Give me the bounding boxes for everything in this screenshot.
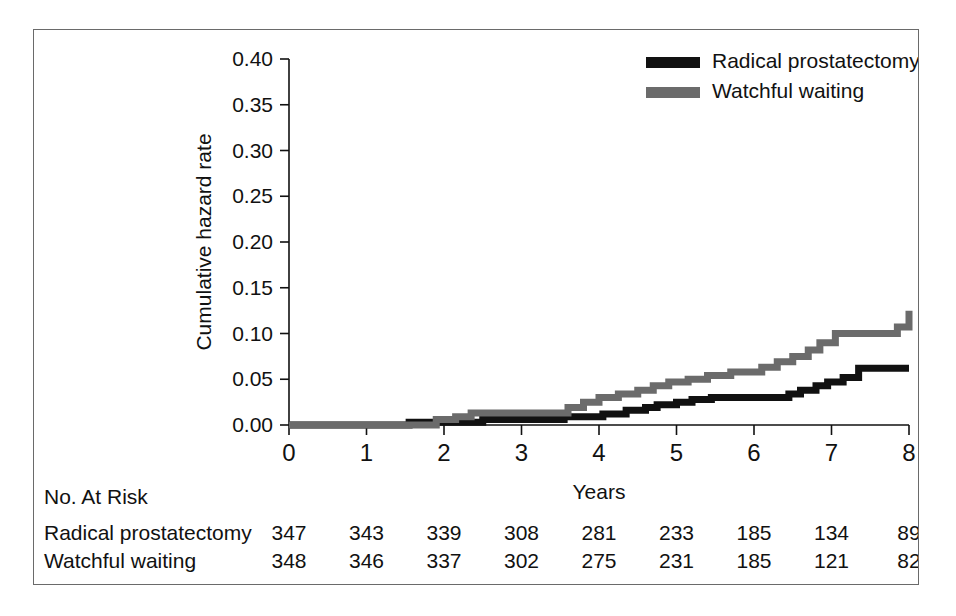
risk-value: 308 <box>504 521 539 544</box>
y-axis-tick-label: 0.05 <box>232 367 273 390</box>
risk-value: 347 <box>271 521 306 544</box>
risk-value: 233 <box>659 521 694 544</box>
risk-table-header: No. At Risk <box>44 485 148 508</box>
legend-swatch-1 <box>646 87 700 98</box>
risk-value: 89 <box>897 521 918 544</box>
legend-label-1: Watchful waiting <box>712 79 864 102</box>
x-axis-title: Years <box>573 480 626 503</box>
risk-value: 346 <box>349 549 384 572</box>
risk-value: 231 <box>659 549 694 572</box>
x-axis-tick-label: 3 <box>515 439 528 466</box>
figure-page: 0.000.050.100.150.200.250.300.350.400123… <box>0 0 956 616</box>
y-axis-tick-label: 0.00 <box>232 413 273 436</box>
y-axis-tick-label: 0.40 <box>232 47 273 70</box>
y-axis-tick-label: 0.10 <box>232 322 273 345</box>
series-line-watchful-waiting <box>289 311 909 425</box>
y-axis-tick-label: 0.35 <box>232 93 273 116</box>
survival-chart: 0.000.050.100.150.200.250.300.350.400123… <box>34 30 918 584</box>
x-axis-tick-label: 4 <box>592 439 605 466</box>
x-axis-tick-label: 0 <box>282 439 295 466</box>
legend-label-0: Radical prostatectomy <box>712 49 918 72</box>
risk-row-label-1: Watchful waiting <box>44 549 196 572</box>
risk-value: 339 <box>426 521 461 544</box>
y-axis-tick-label: 0.15 <box>232 276 273 299</box>
risk-value: 281 <box>581 521 616 544</box>
risk-value: 82 <box>897 549 918 572</box>
risk-value: 343 <box>349 521 384 544</box>
x-axis-tick-label: 6 <box>747 439 760 466</box>
x-axis-tick-label: 1 <box>360 439 373 466</box>
risk-value: 275 <box>581 549 616 572</box>
y-axis-title: Cumulative hazard rate <box>192 133 215 350</box>
legend-swatch-0 <box>646 57 700 68</box>
figure-frame: 0.000.050.100.150.200.250.300.350.400123… <box>33 29 919 585</box>
risk-value: 348 <box>271 549 306 572</box>
x-axis-tick-label: 8 <box>902 439 915 466</box>
y-axis-tick-label: 0.30 <box>232 139 273 162</box>
risk-value: 121 <box>814 549 849 572</box>
risk-value: 185 <box>736 521 771 544</box>
x-axis-tick-label: 7 <box>825 439 838 466</box>
risk-value: 134 <box>814 521 849 544</box>
risk-value: 185 <box>736 549 771 572</box>
y-axis-tick-label: 0.20 <box>232 230 273 253</box>
risk-value: 337 <box>426 549 461 572</box>
y-axis-tick-label: 0.25 <box>232 184 273 207</box>
risk-row-label-0: Radical prostatectomy <box>44 521 252 544</box>
risk-value: 302 <box>504 549 539 572</box>
x-axis-tick-label: 2 <box>437 439 450 466</box>
x-axis-tick-label: 5 <box>670 439 683 466</box>
